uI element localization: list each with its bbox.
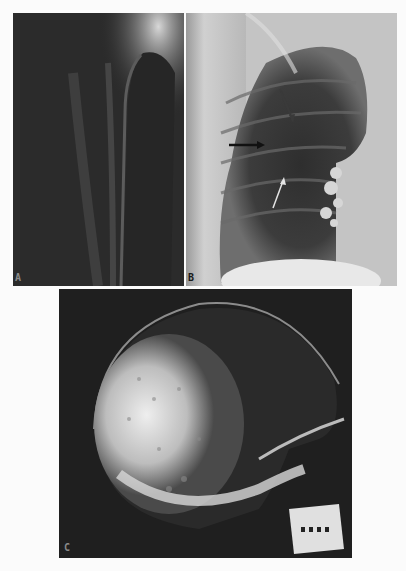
panel-a-humerus-radiograph: A [13,13,184,286]
chest-xray-image [186,13,397,286]
panel-b-chest-radiograph: B [186,13,397,286]
panel-label-b: B [188,273,194,283]
humerus-xray-image [13,13,184,286]
skull-xray-image [59,289,352,558]
panel-label-c: C [64,543,70,553]
panel-c-skull-radiograph: C [59,289,352,558]
panel-label-a: A [15,273,21,283]
